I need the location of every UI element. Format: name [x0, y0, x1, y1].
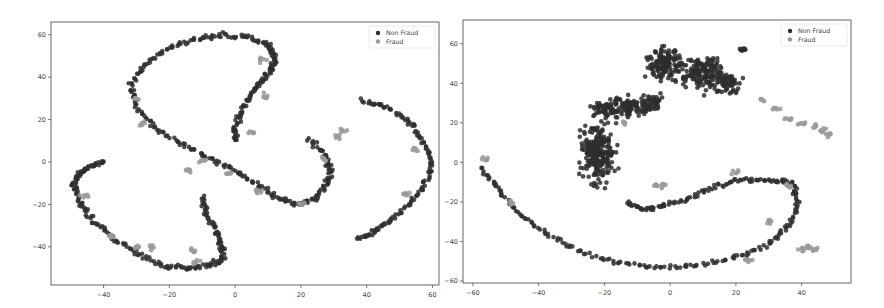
non-fraud-points [69, 30, 434, 272]
x-tick-label: 0 [668, 289, 672, 297]
y-tick-label: −40 [32, 243, 46, 251]
right-scatter-plot: −60−40−2002040−60−40−200204060Non FraudF… [444, 20, 851, 297]
legend-marker-icon [788, 29, 792, 33]
y-axis-ticks: −60−40−200204060 [444, 40, 463, 285]
y-tick-label: 0 [42, 158, 46, 166]
y-tick-label: 0 [454, 159, 458, 167]
y-tick-label: 20 [38, 116, 46, 124]
x-axis-ticks: −40−200204060 [97, 285, 437, 299]
y-tick-label: 20 [450, 119, 458, 127]
x-tick-label: −40 [97, 291, 111, 299]
legend-marker-icon [376, 31, 380, 35]
y-tick-label: −20 [32, 201, 46, 209]
axes-frame [51, 22, 439, 285]
x-tick-label: −60 [466, 289, 480, 297]
y-tick-label: −20 [444, 198, 458, 206]
y-tick-label: 60 [450, 40, 458, 48]
legend-label: Fraud [798, 36, 816, 43]
legend-label: Non Fraud [798, 27, 830, 34]
y-tick-label: 60 [38, 31, 46, 39]
y-tick-label: −60 [444, 277, 458, 285]
y-tick-label: 40 [38, 73, 46, 81]
legend-label: Non Fraud [386, 29, 418, 36]
left-scatter-plot: −40−200204060−40−200204060Non FraudFraud [32, 22, 439, 299]
figure: −40−200204060−40−200204060Non FraudFraud… [0, 0, 884, 308]
x-tick-label: 20 [297, 291, 305, 299]
x-axis-ticks: −60−40−2002040 [466, 283, 806, 297]
x-tick-label: 20 [732, 289, 740, 297]
x-tick-label: −40 [532, 289, 546, 297]
y-tick-label: −40 [444, 238, 458, 246]
legend: Non FraudFraud [781, 24, 847, 46]
x-tick-label: −20 [163, 291, 177, 299]
legend-marker-icon [788, 37, 792, 41]
y-tick-label: 40 [450, 80, 458, 88]
data-points [479, 44, 833, 271]
legend-marker-icon [376, 39, 380, 43]
x-tick-label: −20 [598, 289, 612, 297]
y-axis-ticks: −40−200204060 [32, 31, 51, 251]
x-tick-label: 40 [798, 289, 806, 297]
x-tick-label: 40 [363, 291, 371, 299]
x-tick-label: 0 [233, 291, 237, 299]
data-points [69, 30, 434, 272]
non-fraud-points [479, 44, 802, 271]
x-tick-label: 60 [428, 291, 436, 299]
figure-canvas: −40−200204060−40−200204060Non FraudFraud… [0, 0, 884, 308]
legend-label: Fraud [386, 38, 404, 45]
legend: Non FraudFraud [369, 26, 435, 48]
